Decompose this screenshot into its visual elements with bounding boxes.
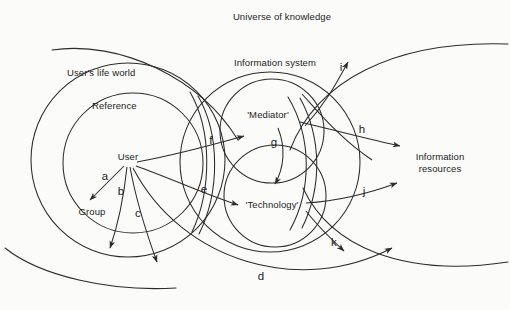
arrow-label-b: b — [118, 185, 125, 198]
arrow-label-e: e — [201, 183, 208, 196]
information-resources-arc-upper-right — [290, 44, 508, 150]
node-label-reference: Reference — [92, 101, 137, 112]
arrow-e — [136, 166, 238, 205]
arrow-label-h: h — [359, 123, 366, 136]
arrow-c — [130, 167, 157, 262]
arrow-label-j: j — [363, 185, 366, 198]
mediator-circle — [220, 79, 324, 183]
arrow-label-g: g — [271, 136, 278, 149]
technology-circle — [224, 145, 326, 247]
arrow-label-d: d — [258, 270, 265, 283]
region-label-universe-of-knowledge: Universe of knowledge — [233, 12, 331, 23]
diagram-canvas: Universe of knowledge User's life world … — [0, 0, 510, 310]
arrow-label-f: f — [209, 134, 212, 147]
region-label-information-resources: Information resources — [397, 151, 483, 175]
arrow-label-k: k — [331, 236, 337, 249]
region-label-information-system: Information system — [234, 58, 316, 69]
information-resources-line1: Information — [416, 151, 465, 162]
arrow-label-a: a — [102, 170, 109, 183]
left-vesica-arc-a — [190, 92, 207, 232]
arrow-b — [110, 167, 127, 248]
node-label-group: Group — [79, 207, 106, 218]
node-label-technology: 'Technology' — [246, 200, 299, 211]
node-label-mediator: 'Mediator' — [247, 110, 289, 121]
node-label-user: User — [118, 152, 138, 163]
arrow-d — [133, 168, 392, 270]
arrow-label-c: c — [135, 207, 141, 220]
region-label-users-life-world: User's life world — [67, 68, 135, 79]
information-resources-line2: resources — [419, 163, 462, 174]
arrow-label-i: i — [340, 61, 343, 74]
